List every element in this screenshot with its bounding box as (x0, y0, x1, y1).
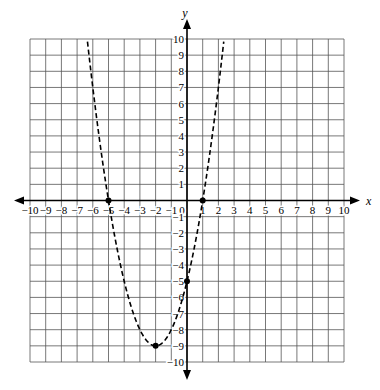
y-tick-label: 5 (179, 114, 185, 126)
y-axis-up-arrow-icon (183, 19, 191, 29)
x-axis-right-arrow-icon (350, 197, 360, 205)
y-tick-label: −5 (172, 275, 184, 287)
point-x-intercept (200, 198, 206, 204)
y-tick-label: 10 (173, 33, 185, 45)
x-tick-label: −8 (56, 204, 68, 216)
y-tick-label: 7 (179, 81, 185, 93)
y-tick-label: 6 (179, 98, 185, 110)
x-tick-label: −5 (103, 204, 115, 216)
y-tick-label: −3 (172, 243, 184, 255)
x-tick-label: −4 (118, 204, 130, 216)
y-tick-label: −1 (172, 211, 184, 223)
point-x-intercept (106, 198, 112, 204)
y-tick-label: 1 (179, 178, 185, 190)
x-tick-label: −2 (150, 204, 162, 216)
y-tick-label: 4 (179, 130, 185, 142)
y-tick-label: −9 (172, 340, 184, 352)
x-tick-label: 5 (263, 204, 269, 216)
y-tick-label: 9 (179, 49, 185, 61)
y-tick-label: 3 (179, 146, 185, 158)
x-tick-label: 3 (231, 204, 237, 216)
x-tick-label: 7 (294, 204, 300, 216)
y-tick-label: −4 (172, 259, 184, 271)
x-tick-label: −10 (21, 204, 39, 216)
y-tick-label: −2 (172, 227, 184, 239)
point-y-intercept (184, 278, 190, 284)
x-tick-label: 6 (278, 204, 284, 216)
x-tick-label: −7 (71, 204, 83, 216)
x-tick-label: 10 (339, 204, 351, 216)
x-tick-label: −6 (87, 204, 99, 216)
axes (14, 19, 360, 380)
y-tick-label: −10 (167, 356, 185, 368)
y-axis-down-arrow-icon (183, 370, 191, 380)
y-tick-label: 2 (179, 162, 185, 174)
x-tick-label: 4 (247, 204, 253, 216)
x-tick-label: −3 (134, 204, 146, 216)
x-tick-label: 9 (326, 204, 332, 216)
y-tick-label: 8 (179, 65, 185, 77)
x-tick-label: 2 (216, 204, 222, 216)
point-vertex (153, 343, 159, 349)
y-axis-label: y (181, 6, 188, 20)
y-tick-label: −8 (172, 324, 184, 336)
x-axis-label: x (365, 194, 372, 208)
x-tick-label: 8 (310, 204, 316, 216)
x-tick-label: −9 (40, 204, 52, 216)
y-tick-label: −6 (172, 291, 184, 303)
parabola-chart: xy−10−9−8−7−6−5−4−3−2−1012345678910−10−9… (0, 0, 380, 390)
